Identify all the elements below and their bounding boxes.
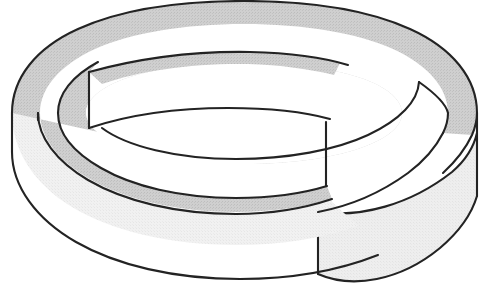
twisted-band-illustration: Twisted band (Möbius-style strip) bbox=[0, 0, 492, 294]
inner-hole-fill bbox=[86, 62, 402, 164]
figure-root: Twisted band (Möbius-style strip) bbox=[0, 0, 492, 294]
